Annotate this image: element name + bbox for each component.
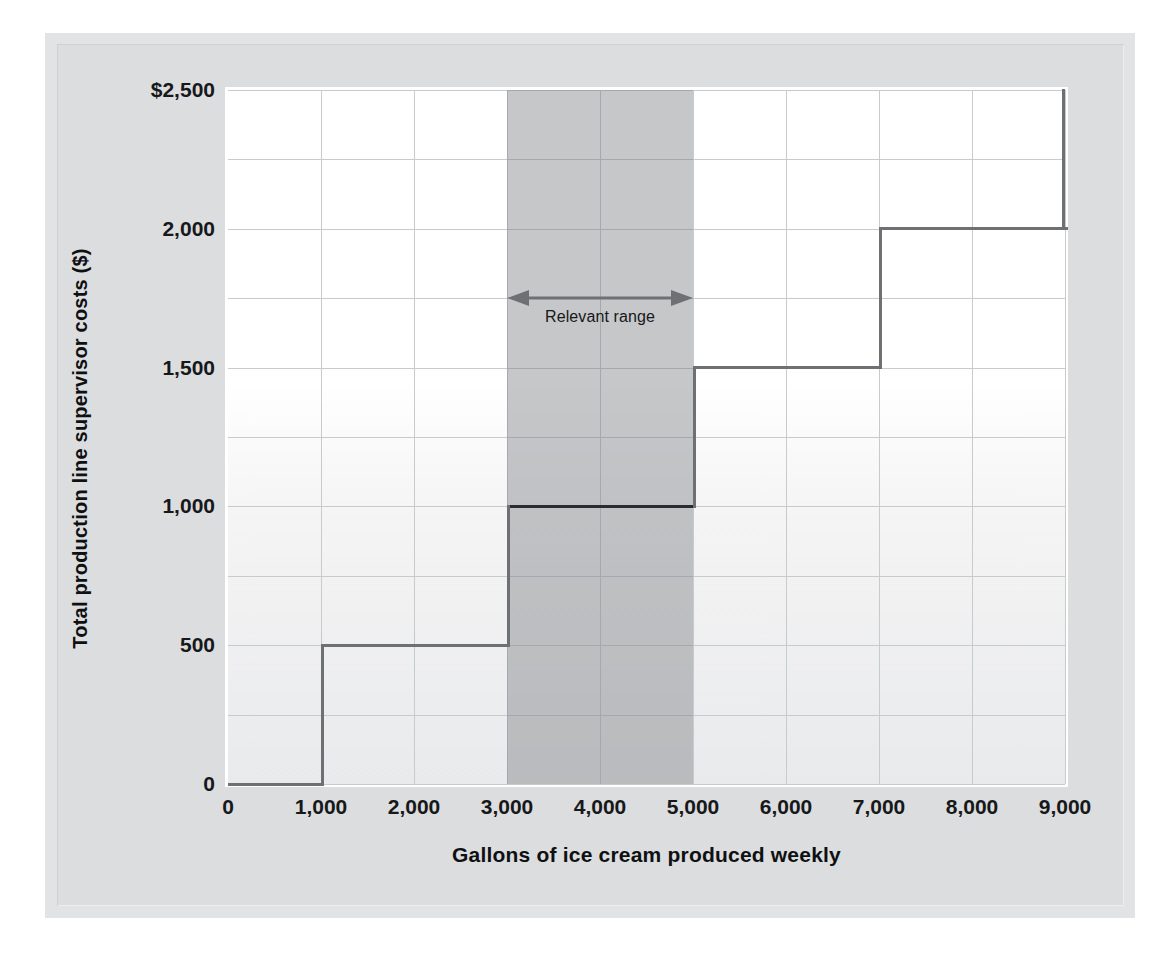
y-axis-tick-label: 1,000 bbox=[95, 494, 215, 518]
y-axis-tick-label: 500 bbox=[95, 633, 215, 657]
gridline-vertical bbox=[414, 90, 415, 784]
relevant-range-band bbox=[507, 90, 693, 784]
step-segment-vertical bbox=[879, 227, 882, 369]
step-segment-vertical bbox=[1062, 89, 1065, 231]
step-segment-vertical bbox=[507, 505, 510, 647]
step-segment-horizontal bbox=[228, 783, 324, 786]
step-cost-chart: Relevant range 05001,0001,5002,000$2,500… bbox=[0, 0, 1175, 965]
y-axis-tick-label: 0 bbox=[95, 772, 215, 796]
x-axis-title: Gallons of ice cream produced weekly bbox=[228, 843, 1065, 867]
gridline-vertical bbox=[786, 90, 787, 784]
gridline-horizontal bbox=[228, 784, 1065, 785]
y-axis-tick-labels: 05001,0001,5002,000$2,500 bbox=[85, 0, 215, 965]
y-axis-tick-label: $2,500 bbox=[95, 78, 215, 102]
y-axis-title: Total production line supervisor costs (… bbox=[69, 139, 92, 759]
step-segment-horizontal bbox=[879, 227, 1068, 230]
relevant-range-arrow-icon bbox=[507, 287, 693, 309]
relevant-range-label: Relevant range bbox=[507, 308, 693, 326]
step-segment-horizontal bbox=[321, 644, 510, 647]
step-segment-vertical bbox=[693, 366, 696, 508]
gridline-vertical bbox=[1065, 90, 1066, 784]
step-segment-horizontal bbox=[693, 366, 882, 369]
step-segment-vertical bbox=[321, 644, 324, 786]
y-axis-tick-label: 2,000 bbox=[95, 217, 215, 241]
gridline-vertical bbox=[972, 90, 973, 784]
step-segment-horizontal bbox=[507, 505, 696, 508]
plot-area: Relevant range bbox=[228, 90, 1065, 784]
y-axis-tick-label: 1,500 bbox=[95, 356, 215, 380]
x-axis-tick-label: 9,000 bbox=[1005, 795, 1125, 819]
gridline-vertical bbox=[879, 90, 880, 784]
